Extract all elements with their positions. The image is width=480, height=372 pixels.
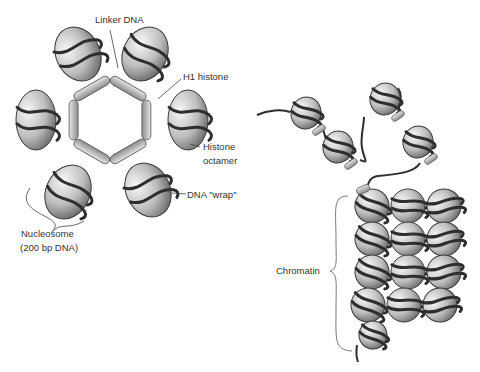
label-chromatin: Chromatin	[276, 265, 320, 277]
histone-octamer	[113, 19, 177, 88]
label-h1-histone: H1 histone	[183, 71, 228, 83]
nucleosome	[391, 222, 428, 256]
nucleosome	[113, 19, 180, 90]
label-nucleosome-1: Nucleosome	[21, 228, 74, 240]
histone-octamer	[391, 189, 425, 223]
nucleosome-chromatin-diagram	[0, 0, 480, 372]
label-nucleosome-2: (200 bp DNA)	[20, 242, 78, 254]
linker-dna-leader	[110, 30, 118, 68]
histone-octamer	[16, 90, 56, 150]
h1-histone-rod	[72, 138, 111, 166]
h1-histone-ring	[69, 75, 151, 166]
label-histone-octamer-1: Histone	[203, 141, 235, 153]
nucleosome	[16, 90, 60, 150]
histone-octamer	[387, 288, 421, 322]
chromatin-nucleosomes	[287, 80, 467, 354]
label-linker-dna: Linker DNA	[95, 14, 144, 26]
h1-histone-rod	[69, 100, 78, 140]
nucleosome	[391, 255, 428, 289]
nucleosome	[423, 217, 468, 259]
chromatin-linker-dna	[257, 88, 420, 362]
chromatin-brace	[330, 196, 352, 351]
label-histone-octamer-2: octamer	[203, 155, 237, 167]
nucleosome	[350, 250, 396, 295]
histone-octamer	[391, 255, 425, 289]
nucleosome	[387, 288, 424, 322]
h1-histone-rod	[109, 138, 148, 166]
nucleosome	[36, 157, 103, 228]
nucleosome	[355, 317, 393, 354]
histone-octamer	[391, 222, 425, 256]
nucleosome	[423, 184, 468, 226]
histone-octamer	[168, 90, 208, 150]
nucleosome	[116, 154, 183, 225]
nucleosome	[391, 189, 428, 223]
h1-histone-rod	[142, 100, 151, 140]
dna-wrap-leader	[172, 193, 186, 194]
nucleosome	[423, 250, 468, 292]
label-dna-wrap: DNA "wrap"	[187, 189, 237, 201]
nucleosome	[419, 283, 464, 325]
